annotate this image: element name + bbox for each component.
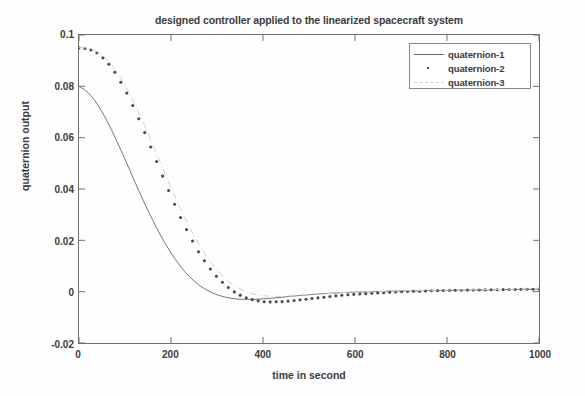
legend-item[interactable]: quaternion-2 (410, 61, 532, 75)
x-axis-ticks: 02004006008001000 (78, 349, 540, 365)
x-tick-label: 600 (347, 349, 364, 360)
x-tick-label: 800 (439, 349, 456, 360)
y-axis-ticks: -0.0200.020.040.060.080.1 (24, 34, 74, 344)
y-tick-label: 0.06 (30, 132, 74, 143)
y-tick-label: 0.08 (30, 80, 74, 91)
x-tick-label: 1000 (529, 349, 551, 360)
x-axis-label: time in second (78, 369, 540, 381)
y-axis-label: quaternion output (19, 76, 31, 216)
legend-item-label: quaternion-2 (448, 63, 504, 74)
y-tick-label: 0.1 (30, 29, 74, 40)
legend-swatch-solid-icon (410, 47, 448, 61)
y-tick-label: 0.04 (30, 184, 74, 195)
legend-item[interactable]: quaternion-3 (410, 75, 532, 89)
y-tick-label: 0 (30, 287, 74, 298)
legend-swatch-dash-dot-icon (410, 75, 448, 89)
legend-item[interactable]: quaternion-1 (410, 47, 532, 61)
chart-legend: quaternion-1quaternion-2quaternion-3 (409, 43, 531, 89)
figure-canvas: designed controller applied to the linea… (0, 0, 585, 396)
page-title: designed controller applied to the linea… (78, 14, 540, 26)
y-tick-label: 0.02 (30, 235, 74, 246)
legend-item-label: quaternion-1 (448, 49, 504, 60)
legend-swatch-dotted-icon (410, 61, 448, 75)
y-tick-label: -0.02 (30, 339, 74, 350)
x-tick-label: 200 (162, 349, 179, 360)
x-tick-label: 400 (254, 349, 271, 360)
x-tick-label: 0 (75, 349, 81, 360)
legend-item-label: quaternion-3 (448, 77, 504, 88)
